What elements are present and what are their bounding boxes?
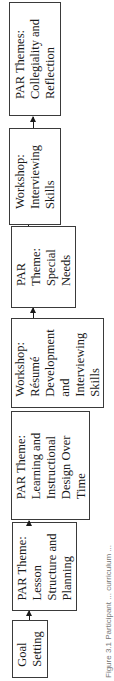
box-par-collegiality: PAR Themes: Collegiality and Reflection: [9, 2, 61, 116]
arrow-1: [29, 611, 30, 620]
box-goal-setting: Goal Setting: [12, 620, 48, 678]
step-label: PAR Theme: Learning and Instructional De…: [13, 432, 88, 498]
step-label: PAR Theme: Lesson Structure and Planning: [15, 533, 75, 600]
arrow-6: [33, 117, 34, 128]
step-label: Workshop: Interviewing Skills: [13, 145, 58, 209]
figure-caption: Figure 3.1 Participant ... curriculum ..…: [104, 545, 113, 678]
box-par-lesson: PAR Theme: Lesson Structure and Planning: [12, 522, 77, 611]
box-workshop-interviewing: Workshop: Interviewing Skills: [9, 128, 61, 225]
step-label: Workshop: Résumé Development and Intervi…: [13, 329, 103, 396]
step-label: PAR Theme: Special Needs: [14, 248, 74, 286]
step-label: PAR Themes: Collegiality and Reflection: [13, 19, 58, 99]
box-workshop-resume: Workshop: Résumé Development and Intervi…: [11, 318, 104, 408]
box-par-special: PAR Theme: Special Needs: [11, 226, 76, 308]
arrow-4: [33, 308, 34, 318]
box-par-learning: PAR Theme: Learning and Instructional De…: [11, 411, 90, 520]
step-label: Goal Setting: [15, 631, 45, 666]
arrow-2: [29, 521, 30, 522]
